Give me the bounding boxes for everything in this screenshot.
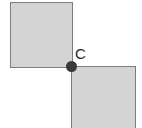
- bottom-right-square: [71, 66, 136, 128]
- corner-point-label: C: [75, 46, 86, 61]
- corner-point-marker: [66, 61, 77, 72]
- geometry-figure: C: [0, 0, 142, 128]
- top-left-square: [10, 2, 73, 68]
